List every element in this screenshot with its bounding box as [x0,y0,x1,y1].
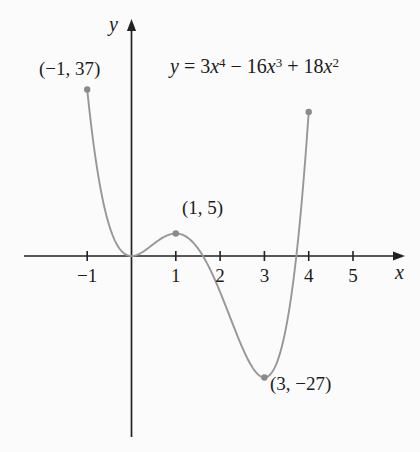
x-tick-label: −1 [77,266,97,287]
equation-coeff-1: 3 [200,55,210,77]
data-point [84,86,90,92]
figure: y x y = 3x4 − 16x3 + 18x2 (−1, 37) (1, 5… [0,0,420,452]
x-axis-label: x [395,261,404,283]
equation-op-1: − [226,55,247,77]
equation-lhs: y [170,55,179,77]
data-point [261,374,267,380]
equation-exp-3: 2 [332,55,339,70]
x-axis-arrow-icon [393,251,405,260]
equation-annotation: y = 3x4 − 16x3 + 18x2 [170,55,339,77]
data-point [306,109,312,115]
equation-coeff-2: 16 [247,55,267,77]
equation-coeff-3: 18 [304,55,324,77]
equation-var-1: x [210,55,219,77]
x-tick-label: 4 [304,266,314,287]
x-tick-label: 3 [260,266,270,287]
point-label-minus1-37: (−1, 37) [39,59,100,80]
x-tick-label: 1 [171,266,181,287]
equation-equals: = [179,55,200,77]
data-points [84,86,312,380]
equation-op-2: + [282,55,303,77]
x-tick-label: 2 [215,266,225,287]
equation-var-2: x [267,55,276,77]
x-tick-label: 5 [348,266,358,287]
data-point [173,230,179,236]
function-curve [87,90,309,378]
y-axis-arrow-icon [127,19,136,31]
y-axis-label: y [109,13,118,35]
point-label-3-minus27: (3, −27) [270,374,331,395]
point-label-1-5: (1, 5) [182,198,223,219]
